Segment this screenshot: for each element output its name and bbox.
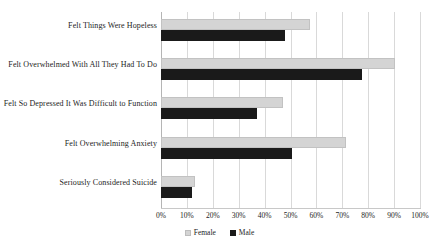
- plot-area: Felt Things Were HopelessFelt Overwhelme…: [161, 12, 420, 208]
- x-axis-tick-label: 80%: [361, 209, 375, 222]
- bar-male: [161, 30, 285, 41]
- bar-chart: Felt Things Were HopelessFelt Overwhelme…: [0, 0, 439, 246]
- bar-female: [161, 97, 283, 108]
- x-axis-tick-label: 70%: [335, 209, 349, 222]
- x-axis-tick-label: 20%: [206, 209, 220, 222]
- x-axis-tick-label: 40%: [258, 209, 272, 222]
- legend-swatch-icon: [185, 230, 191, 236]
- x-axis-tick-label: 60%: [310, 209, 324, 222]
- x-axis-tick-label: 100%: [411, 209, 429, 222]
- category-row: Felt So Depressed It Was Difficult to Fu…: [161, 90, 420, 129]
- legend-label: Male: [239, 227, 254, 238]
- category-label: Seriously Considered Suicide: [60, 177, 157, 188]
- x-axis-tick-labels: 0%10%20%30%40%50%60%70%80%90%100%: [161, 209, 420, 223]
- x-axis-tick-label: 0%: [156, 209, 166, 222]
- x-axis-tick-label: 50%: [284, 209, 298, 222]
- legend-item-male[interactable]: Male: [230, 227, 254, 238]
- bar-female: [161, 137, 346, 148]
- x-axis-tick-label: 90%: [387, 209, 401, 222]
- bar-female: [161, 176, 195, 187]
- gridline: [420, 12, 421, 208]
- category-label: Felt Overwhelming Anxiety: [65, 138, 157, 149]
- bar-male: [161, 148, 292, 159]
- category-label: Felt Overwhelmed With All They Had To Do: [8, 59, 157, 70]
- category-row: Felt Overwhelming Anxiety: [161, 130, 420, 169]
- legend-swatch-icon: [230, 230, 236, 236]
- bar-female: [161, 58, 395, 69]
- category-label: Felt Things Were Hopeless: [68, 20, 157, 31]
- bar-male: [161, 187, 192, 198]
- category-row: Felt Overwhelmed With All They Had To Do: [161, 51, 420, 90]
- x-axis-tick-label: 30%: [232, 209, 246, 222]
- x-axis-tick-label: 10%: [180, 209, 194, 222]
- category-label: Felt So Depressed It Was Difficult to Fu…: [4, 98, 157, 109]
- bar-male: [161, 69, 362, 80]
- legend-item-female[interactable]: Female: [185, 227, 216, 238]
- bar-female: [161, 19, 310, 30]
- legend-label: Female: [194, 227, 216, 238]
- category-row: Felt Things Were Hopeless: [161, 12, 420, 51]
- bar-male: [161, 108, 257, 119]
- chart-legend: FemaleMale: [0, 227, 439, 238]
- category-row: Seriously Considered Suicide: [161, 169, 420, 208]
